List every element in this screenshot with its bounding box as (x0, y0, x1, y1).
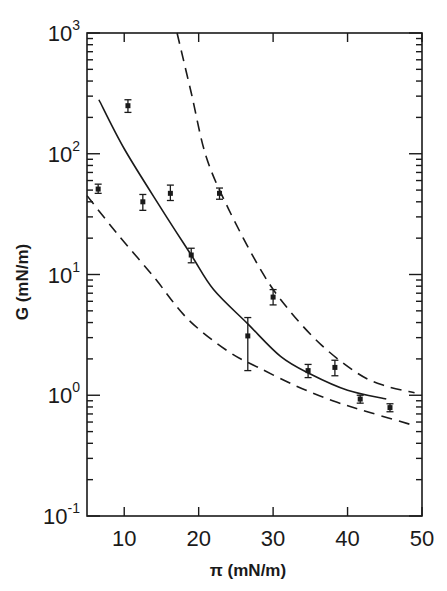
y-axis-tick-labels: 10-1100101102103 (43, 17, 80, 529)
point-marker (387, 405, 392, 410)
y-tick-label: 10-1 (43, 500, 80, 529)
data-point (305, 364, 312, 377)
point-marker (125, 103, 130, 108)
y-tick-label: 101 (48, 259, 80, 288)
solid-theory-curve (99, 100, 386, 399)
y-axis-title: G (mN/m) (13, 244, 32, 321)
data-point (95, 184, 102, 193)
point-marker (306, 368, 311, 373)
x-tick-label: 50 (410, 526, 434, 551)
data-points (95, 100, 394, 412)
y-tick-label: 100 (48, 379, 80, 408)
upper-dashed-curve (177, 33, 414, 393)
x-tick-label: 30 (261, 526, 285, 551)
x-axis-tick-labels: 1020304050 (112, 526, 434, 551)
x-tick-label: 40 (335, 526, 359, 551)
y-tick-label: 102 (48, 138, 80, 167)
x-tick-label: 10 (112, 526, 136, 551)
curves (87, 33, 415, 426)
y-axis-ticks (87, 33, 422, 516)
lower-dashed-curve (87, 196, 415, 426)
plot-frame (87, 33, 422, 516)
data-point (124, 100, 131, 113)
point-marker (217, 191, 222, 196)
point-marker (96, 187, 101, 192)
chart: 1020304050 10-1100101102103 π (mN/m) G (… (0, 0, 447, 591)
data-point (357, 395, 364, 403)
data-point (167, 185, 174, 200)
data-point (139, 194, 146, 210)
plot-border (87, 33, 422, 516)
x-axis-title: π (mN/m) (210, 561, 286, 580)
data-point (331, 360, 338, 376)
point-marker (245, 333, 250, 338)
point-marker (271, 295, 276, 300)
x-axis-ticks (124, 33, 422, 516)
point-marker (168, 191, 173, 196)
data-point (386, 404, 393, 412)
point-marker (140, 199, 145, 204)
x-tick-label: 20 (186, 526, 210, 551)
y-tick-label: 103 (48, 17, 80, 46)
point-marker (332, 365, 337, 370)
point-marker (189, 253, 194, 258)
data-point (216, 188, 223, 199)
point-marker (358, 397, 363, 402)
